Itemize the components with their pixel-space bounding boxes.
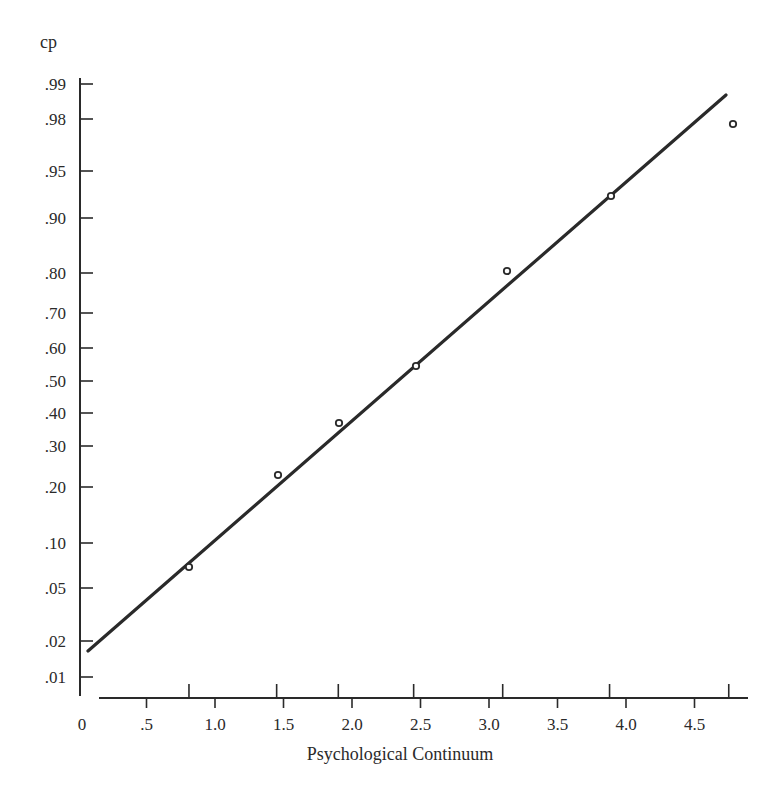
y-tick-label: .30 (45, 437, 66, 456)
y-tick-label: .50 (45, 372, 66, 391)
fitted-line (88, 95, 726, 651)
x-tick-label: 0 (78, 715, 87, 734)
psychometric-chart: cp .99.98.95.90.80.70.60.50.40.30.20.10.… (0, 0, 783, 795)
x-tick-label: 3.0 (478, 715, 499, 734)
y-tick-label: .98 (45, 110, 66, 129)
y-tick-label: .05 (45, 579, 66, 598)
y-axis-title: cp (40, 32, 57, 52)
y-tick-label: .99 (45, 75, 66, 94)
y-tick-label: .70 (45, 304, 66, 323)
x-tick-label: 4.5 (684, 715, 705, 734)
y-tick-label: .20 (45, 478, 66, 497)
x-tick-label: 2.5 (410, 715, 431, 734)
x-tick-label: 4.0 (615, 715, 636, 734)
y-axis-ticks: .99.98.95.90.80.70.60.50.40.30.20.10.05.… (45, 75, 93, 687)
data-point-marker (275, 472, 281, 478)
x-tick-label: 2.0 (341, 715, 362, 734)
data-point-marker (413, 363, 419, 369)
x-tick-label: 1.0 (204, 715, 225, 734)
y-tick-label: .10 (45, 534, 66, 553)
x-axis-ticks: 0.51.01.52.02.53.03.54.04.5 (78, 698, 705, 734)
data-point-marker (336, 420, 342, 426)
x-tick-label: 3.5 (547, 715, 568, 734)
data-point-marker (186, 564, 192, 570)
stimulus-ticks (189, 684, 729, 698)
y-tick-label: .90 (45, 209, 66, 228)
data-points (186, 121, 736, 570)
data-point-marker (504, 268, 510, 274)
data-point-marker (730, 121, 736, 127)
data-point-marker (608, 193, 614, 199)
y-tick-label: .60 (45, 339, 66, 358)
x-tick-label: .5 (140, 715, 153, 734)
y-tick-label: .01 (45, 668, 66, 687)
y-tick-label: .02 (45, 632, 66, 651)
y-tick-label: .40 (45, 404, 66, 423)
x-axis-title: Psychological Continuum (307, 744, 494, 764)
y-tick-label: .80 (45, 264, 66, 283)
y-tick-label: .95 (45, 162, 66, 181)
x-tick-label: 1.5 (273, 715, 294, 734)
